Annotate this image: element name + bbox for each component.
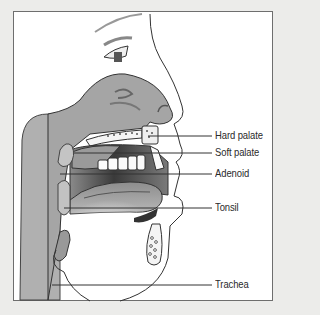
tonsil-tissue (58, 180, 70, 215)
label-soft-palate: Soft palate (215, 146, 259, 158)
maxilla-front (142, 126, 158, 144)
label-trachea: Trachea (215, 278, 249, 290)
eyelid (104, 38, 132, 45)
label-adenoid: Adenoid (215, 167, 249, 179)
eyebrow (95, 14, 142, 32)
label-tonsil: Tonsil (215, 201, 239, 213)
eyelashes (114, 52, 122, 62)
label-hard-palate: Hard palate (215, 129, 263, 141)
